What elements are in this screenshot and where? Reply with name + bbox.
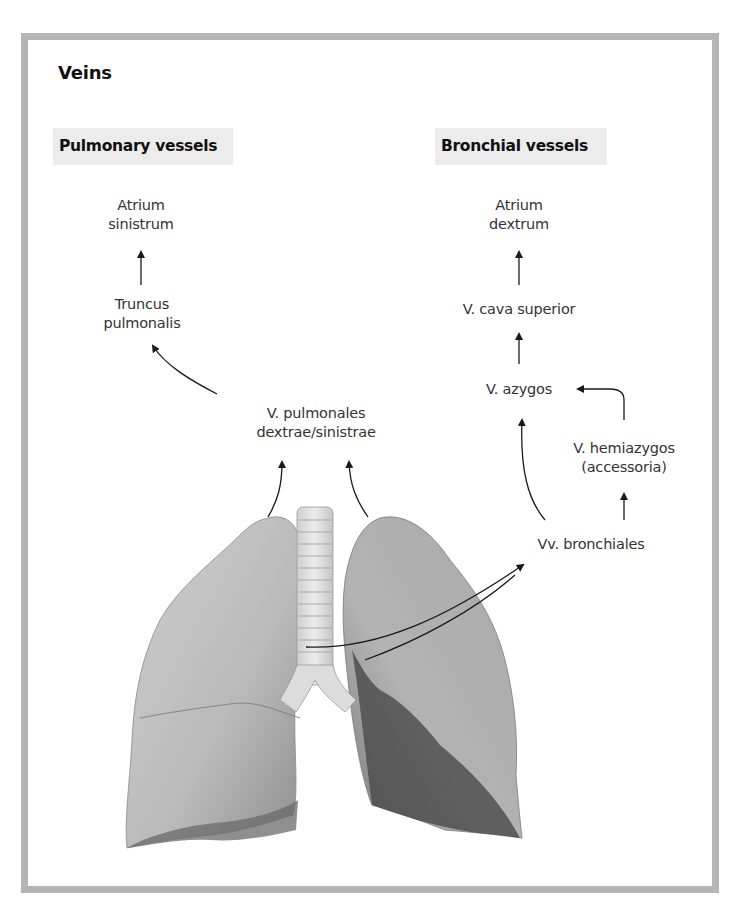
right-lung [126,517,301,848]
arrow-left-lung-to-vpulm [349,462,368,517]
left-lung [343,517,522,838]
pulmonary-arrows [141,252,368,517]
lungs-illustration [0,0,733,911]
arrow-vpulm-to-truncus [153,346,217,394]
arrow-hemiazygos-to-azygos [578,389,624,420]
arrow-right-lung-to-vpulm [268,462,282,517]
arrow-bronchiales-to-azygos [522,420,545,520]
